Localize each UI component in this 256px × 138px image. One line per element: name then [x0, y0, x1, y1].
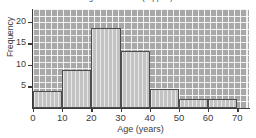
histogram-bar — [150, 89, 179, 108]
chart-title: Age Distribution (clipped) — [0, 0, 256, 3]
x-tick-label: 10 — [49, 112, 75, 123]
histogram-bar — [179, 99, 208, 108]
x-tick-label: 0 — [20, 112, 46, 123]
histogram-bar — [33, 91, 62, 108]
x-axis-line — [32, 108, 250, 109]
histogram-bar — [91, 28, 120, 108]
y-tick-mark — [28, 65, 33, 66]
y-tick-mark — [28, 43, 33, 44]
plot-area — [33, 9, 249, 108]
x-tick-label: 40 — [137, 112, 163, 123]
y-axis-label: Frequency — [5, 6, 15, 68]
y-tick-label: 10 — [0, 60, 26, 69]
x-tick-label: 60 — [195, 112, 221, 123]
x-tick-label: 50 — [166, 112, 192, 123]
histogram-bar — [208, 99, 237, 108]
histogram-bar — [62, 70, 91, 108]
y-tick-mark — [28, 86, 33, 87]
histogram-figure: Age Distribution (clipped) Frequency 510… — [0, 0, 256, 138]
x-tick-label: 20 — [78, 112, 104, 123]
y-axis-line — [32, 9, 33, 109]
y-tick-label: 20 — [0, 17, 26, 26]
y-tick-label: 5 — [0, 81, 26, 90]
x-tick-label: 70 — [224, 112, 250, 123]
y-tick-mark — [28, 22, 33, 23]
histogram-bar — [121, 51, 150, 108]
x-axis-label: Age (years) — [33, 124, 248, 134]
y-tick-label: 15 — [0, 38, 26, 47]
x-tick-label: 30 — [108, 112, 134, 123]
